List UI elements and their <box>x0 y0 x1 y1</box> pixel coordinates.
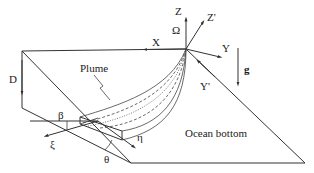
theta-label: θ <box>104 153 109 165</box>
xi-label: ξ <box>50 138 55 151</box>
theta-arc <box>105 140 112 150</box>
plume-slope-diagram: X D Y' Z Ω Z' Y g Plume η <box>0 0 314 173</box>
depth-label: D <box>9 73 17 85</box>
beta-label: β <box>58 109 64 121</box>
gravity-label: g <box>244 63 250 75</box>
z-label: Z <box>175 5 182 17</box>
plume-pointer <box>94 75 110 100</box>
y-prime-arrow <box>198 61 215 77</box>
z-prime-axis <box>186 22 203 49</box>
y-prime-label: Y' <box>200 80 210 92</box>
z-prime-label: Z' <box>207 11 216 23</box>
slope-diagonal <box>22 51 131 163</box>
lower-left-edge <box>22 108 131 163</box>
y-label: Y <box>222 42 230 54</box>
omega-label: Ω <box>172 24 180 36</box>
top-edge <box>22 49 186 51</box>
plume-label: Plume <box>80 62 108 74</box>
ocean-bottom-label: Ocean bottom <box>185 127 247 139</box>
eta-label: η <box>137 131 143 143</box>
y-axis <box>186 49 220 57</box>
x-axis-label: X <box>152 36 160 48</box>
